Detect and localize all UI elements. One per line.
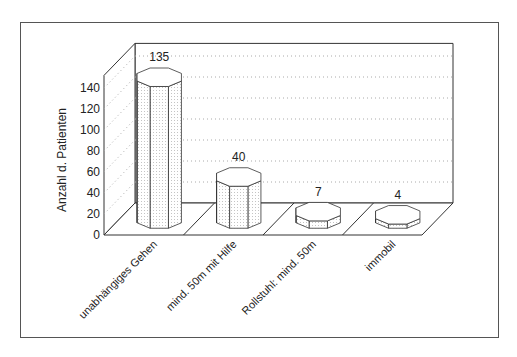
y-tick-label: 140 xyxy=(80,81,100,95)
bar-face xyxy=(248,181,261,228)
bar-face xyxy=(168,81,181,228)
bar-face xyxy=(309,221,327,228)
bar-chart-3d: 1354074 020406080100120140 unabhängiges … xyxy=(0,0,517,357)
data-label: 40 xyxy=(232,150,246,164)
data-label: 7 xyxy=(315,185,322,199)
data-label: 135 xyxy=(149,50,169,64)
x-tick-label: immobil xyxy=(362,238,397,273)
y-tick-label: 60 xyxy=(87,165,101,179)
y-axis-label: Anzahl d. Patienten xyxy=(55,108,69,212)
bar-top xyxy=(217,168,261,186)
y-tick-label: 100 xyxy=(80,123,100,137)
y-axis: 020406080100120140 xyxy=(80,81,100,242)
bar-face xyxy=(217,181,230,228)
bar-top xyxy=(296,202,340,220)
x-tick-label: unabhängiges Gehen xyxy=(76,238,159,321)
x-tick-label: Rollstuhl: mind. 50m xyxy=(239,238,318,317)
x-axis: unabhängiges Gehenmind. 50m mit HilfeRol… xyxy=(76,238,397,321)
bar-face xyxy=(389,224,407,228)
y-tick-label: 20 xyxy=(87,207,101,221)
y-tick-label: 40 xyxy=(87,186,101,200)
back-wall xyxy=(135,43,453,203)
x-tick-label: mind. 50m mit Hilfe xyxy=(164,238,239,313)
data-label: 4 xyxy=(394,188,401,202)
y-tick-label: 0 xyxy=(93,228,100,242)
bar: 135 xyxy=(137,50,181,228)
bar-top xyxy=(376,206,420,224)
bar-face xyxy=(137,81,150,228)
bar-top xyxy=(137,68,181,86)
bar-face xyxy=(230,186,248,228)
y-tick-label: 120 xyxy=(80,102,100,116)
bar-face xyxy=(150,86,168,228)
y-tick-label: 80 xyxy=(87,144,101,158)
side-wall xyxy=(104,43,135,235)
